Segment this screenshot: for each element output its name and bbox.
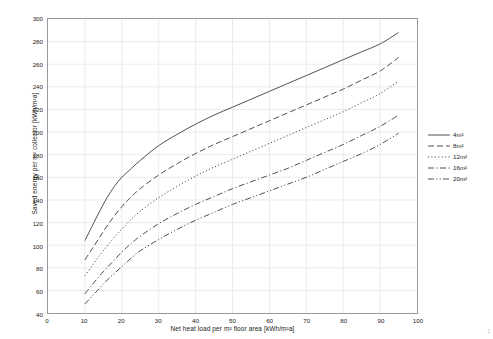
x-tick-70: 70 xyxy=(303,317,310,324)
y-axis-tick-labels: 406080100120140160180200220240260280300 xyxy=(0,18,43,314)
y-tick-120: 120 xyxy=(33,219,43,226)
legend-item-12m²[interactable]: 12m² xyxy=(428,151,490,162)
x-tick-100: 100 xyxy=(413,317,423,324)
curve-8m² xyxy=(85,57,399,259)
y-tick-80: 80 xyxy=(36,265,43,272)
y-tick-240: 240 xyxy=(33,83,43,90)
legend-item-20m²[interactable]: 20m² xyxy=(428,173,490,184)
x-tick-90: 90 xyxy=(377,317,384,324)
x-tick-20: 20 xyxy=(118,317,125,324)
corner-page-mark: 1 xyxy=(487,328,490,334)
x-tick-80: 80 xyxy=(340,317,347,324)
y-tick-280: 280 xyxy=(33,37,43,44)
legend-line-swatch-20m² xyxy=(428,175,450,183)
x-tick-0: 0 xyxy=(45,317,48,324)
x-axis-title: Net heat load per m² floor area [kWh/m²a… xyxy=(47,325,418,332)
legend-label-20m²: 20m² xyxy=(453,175,467,182)
y-tick-260: 260 xyxy=(33,60,43,67)
legend-line-swatch-4m² xyxy=(428,131,450,139)
x-tick-30: 30 xyxy=(155,317,162,324)
legend-item-16m²[interactable]: 16m² xyxy=(428,162,490,173)
x-tick-10: 10 xyxy=(81,317,88,324)
legend-line-swatch-8m² xyxy=(428,142,450,150)
curve-4m² xyxy=(85,33,399,241)
legend-item-4m²[interactable]: 4m² xyxy=(428,129,490,140)
legend-label-16m²: 16m² xyxy=(453,164,467,171)
y-tick-140: 140 xyxy=(33,197,43,204)
chart-figure: Saved energy per m² collector [kWh/m²a] … xyxy=(0,0,493,339)
y-tick-160: 160 xyxy=(33,174,43,181)
legend-label-4m²: 4m² xyxy=(453,131,464,138)
x-tick-50: 50 xyxy=(229,317,236,324)
chart-legend: 4m²8m²12m²16m²20m² xyxy=(428,129,490,184)
y-tick-180: 180 xyxy=(33,151,43,158)
y-tick-220: 220 xyxy=(33,106,43,113)
legend-label-8m²: 8m² xyxy=(453,142,464,149)
y-tick-60: 60 xyxy=(36,288,43,295)
y-tick-300: 300 xyxy=(33,15,43,22)
legend-line-swatch-12m² xyxy=(428,153,450,161)
y-tick-100: 100 xyxy=(33,242,43,249)
y-tick-40: 40 xyxy=(36,311,43,318)
legend-line-swatch-16m² xyxy=(428,164,450,172)
curve-16m² xyxy=(85,115,399,294)
legend-item-8m²[interactable]: 8m² xyxy=(428,140,490,151)
curve-20m² xyxy=(85,133,399,304)
data-curves xyxy=(48,19,417,313)
x-tick-40: 40 xyxy=(192,317,199,324)
curve-12m² xyxy=(85,81,399,275)
y-tick-200: 200 xyxy=(33,128,43,135)
plot-area xyxy=(47,18,418,314)
legend-label-12m²: 12m² xyxy=(453,153,467,160)
x-tick-60: 60 xyxy=(266,317,273,324)
